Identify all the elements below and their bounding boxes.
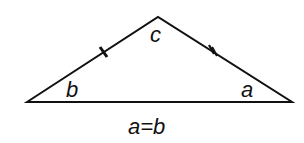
left-side-tick-mark	[100, 47, 107, 57]
angle-label-apex: c	[150, 22, 161, 47]
angle-label-right: a	[241, 77, 253, 102]
triangle-diagram: c b a a=b	[0, 0, 304, 143]
angle-label-left: b	[66, 77, 78, 102]
caption: a=b	[128, 114, 165, 139]
